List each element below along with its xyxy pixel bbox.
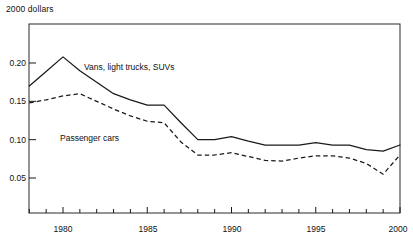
plot-frame [29,24,400,213]
plot-area [0,0,413,248]
y-axis-ticks [29,63,36,178]
series-line-vans [29,57,400,151]
x-axis-ticks [29,207,400,213]
series-line-passenger-cars [29,94,400,175]
chart-container: 2000 dollars 0.20 0.15 0.10 0.05 1980 19… [0,0,413,248]
